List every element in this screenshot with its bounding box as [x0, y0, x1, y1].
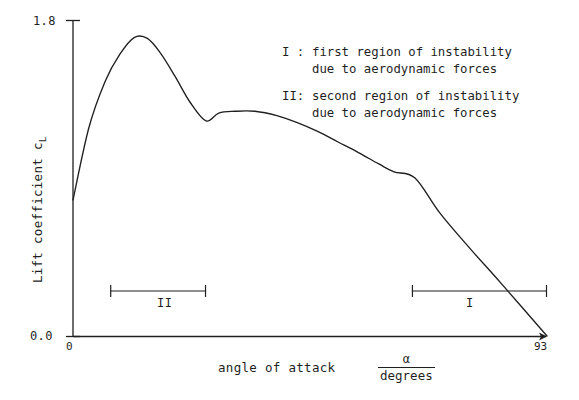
- x-axis: [73, 333, 547, 341]
- legend-description-II-line2: due to aerodynamic forces: [312, 105, 519, 122]
- x-axis-unit-denominator: degrees: [378, 369, 435, 383]
- legend-entry-II: II: second region of instabilitydue to a…: [282, 88, 519, 123]
- legend-description-I-line2: due to aerodynamic forces: [312, 61, 512, 78]
- legend-description-I: first region of instabilitydue to aerody…: [312, 44, 512, 79]
- x-axis-max-label: 93: [534, 340, 547, 355]
- y-axis-title-main: Lift coefficient c: [30, 142, 45, 283]
- x-axis-unit-fraction: α degrees: [378, 353, 435, 383]
- chart-figure: 1.8 0.0 0 93 Lift coefficient cL angle o…: [0, 0, 579, 400]
- y-axis-max-label: 1.8: [33, 13, 56, 29]
- region-label-II: II: [157, 295, 172, 311]
- legend-key-I: I :: [282, 44, 312, 79]
- y-axis-title: Lift coefficient cL: [30, 110, 49, 310]
- x-axis-unit-numerator: α: [378, 353, 435, 366]
- legend-description-II: second region of instabilitydue to aerod…: [312, 88, 519, 123]
- y-axis-title-subscript: L: [37, 136, 48, 142]
- chart-legend: I : first region of instabilitydue to ae…: [282, 44, 519, 132]
- region-label-I: I: [466, 295, 474, 311]
- legend-description-I-line1: first region of instability: [312, 45, 512, 59]
- region-marker-I: [412, 285, 547, 297]
- y-axis-min-label: 0.0: [30, 328, 53, 344]
- legend-entry-I: I : first region of instabilitydue to ae…: [282, 44, 519, 79]
- legend-description-II-line1: second region of instability: [312, 89, 519, 103]
- x-axis-min-label: 0: [66, 340, 73, 355]
- x-axis-title: angle of attack: [218, 360, 335, 377]
- legend-key-II: II:: [282, 88, 312, 123]
